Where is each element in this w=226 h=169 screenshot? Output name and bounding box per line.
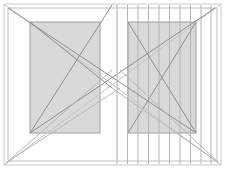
drawing-canvas xyxy=(0,0,226,169)
wireframe-drawing xyxy=(0,0,226,169)
